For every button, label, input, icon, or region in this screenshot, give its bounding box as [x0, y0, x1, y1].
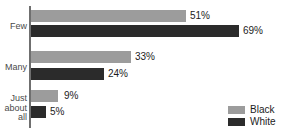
legend: Black White	[228, 104, 283, 128]
bar-value-few-black: 51%	[190, 10, 210, 22]
bar-value-just-about-all-black: 9%	[64, 90, 78, 102]
bar-value-few-white: 69%	[243, 25, 263, 37]
bar-many-white	[31, 68, 104, 80]
bar-value-just-about-all-white: 5%	[50, 106, 64, 118]
bar-many-black	[31, 51, 131, 63]
category-label-few: Few	[0, 22, 27, 32]
bar-just-about-all-white	[31, 106, 46, 118]
legend-label-white: White	[250, 117, 276, 127]
bar-few-black	[31, 10, 186, 22]
bar-chart: Few Many Just about all 51% 69% 33% 24% …	[0, 0, 283, 132]
bar-value-many-black: 33%	[135, 51, 155, 63]
legend-swatch-white-icon	[228, 118, 245, 126]
legend-swatch-black-icon	[228, 106, 245, 114]
legend-item-white: White	[228, 116, 283, 127]
category-label-all: all	[0, 113, 27, 123]
category-label-just-about-all: Just about all	[0, 94, 27, 123]
bar-value-many-white: 24%	[108, 68, 128, 80]
category-axis-labels: Few Many Just about all	[0, 0, 27, 132]
bar-few-white	[31, 25, 239, 37]
legend-item-black: Black	[228, 104, 283, 115]
bar-just-about-all-black	[31, 90, 58, 102]
category-label-many: Many	[0, 63, 27, 73]
legend-label-black: Black	[250, 105, 274, 115]
